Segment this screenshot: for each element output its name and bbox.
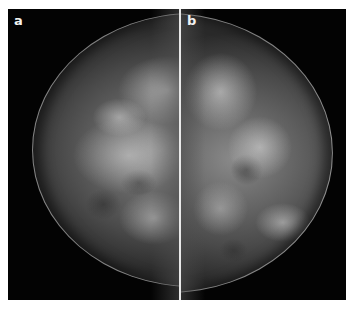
chest-wall-shading-b: [181, 9, 205, 300]
panel-label-b: b: [187, 14, 196, 27]
panel-label-a: a: [14, 14, 23, 27]
panel-a: a: [8, 9, 179, 300]
chest-wall-shading-a: [151, 9, 179, 300]
figure: a b: [8, 9, 346, 300]
panel-b: b: [181, 9, 346, 300]
